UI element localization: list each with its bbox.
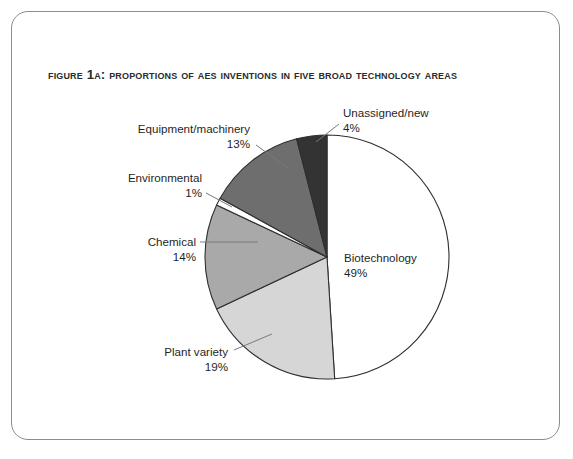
figure-page: Figure 1a: Proportions of AES Inventions…: [0, 0, 573, 459]
slice-label-value: 14%: [173, 250, 196, 263]
slice-label-name: Environmental: [128, 171, 202, 184]
slice-label-name: Chemical: [148, 235, 196, 248]
slice-label-value: 13%: [227, 137, 250, 150]
slice-label-name: Unassigned/new: [343, 106, 429, 119]
slice-label-value: 1%: [185, 186, 202, 199]
slice-label-name: Equipment/machinery: [138, 122, 250, 135]
slice-label-value: 19%: [205, 360, 228, 373]
slice-label-name: Plant variety: [164, 345, 228, 358]
pie-chart: Biotechnology49%Plant variety19%Chemical…: [0, 0, 573, 459]
slice-label-value: 4%: [343, 121, 360, 134]
slice-label-value: 49%: [344, 266, 367, 279]
slice-label-name: Biotechnology: [344, 251, 417, 264]
